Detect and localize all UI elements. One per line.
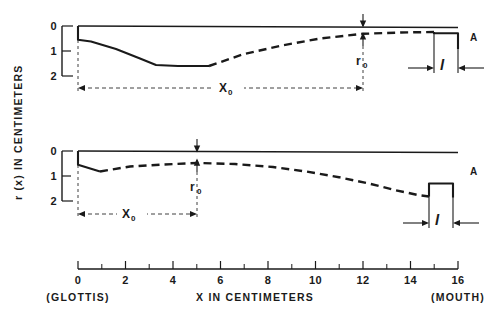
lower-l-dimension: l xyxy=(403,196,479,228)
lower-area-label: A xyxy=(470,166,478,177)
upper-r0-marker: r 0 xyxy=(356,14,368,92)
x-axis-left-end-label: (GLOTTIS) xyxy=(46,291,109,303)
lower-x0-label: X xyxy=(122,207,130,221)
upper-r0-subscript: 0 xyxy=(363,61,368,70)
lower-x0-subscript: 0 xyxy=(131,214,136,223)
upper-x0-label: X xyxy=(219,81,227,95)
upper-l-label: l xyxy=(440,56,445,73)
x-tick-label-6: 6 xyxy=(217,274,223,286)
lower-y-tick-label-0: 0 xyxy=(51,145,57,157)
upper-mouth-step xyxy=(434,32,458,49)
upper-x0-dimension: X 0 xyxy=(78,40,363,97)
x-axis-major-ticks xyxy=(78,261,458,269)
lower-r0-label: r xyxy=(190,180,195,194)
x-tick-label-10: 10 xyxy=(309,274,322,286)
x-axis: 0 2 4 6 8 10 12 14 16 (GLOTTIS) X IN CEN… xyxy=(46,261,485,303)
lower-wall-line xyxy=(78,151,458,153)
lower-radius-dashed-curve xyxy=(100,163,429,197)
lower-l-arrowhead-left xyxy=(422,220,429,226)
upper-l-arrowhead-right xyxy=(458,65,465,71)
upper-r0-label: r xyxy=(356,54,361,68)
lower-x0-arrowhead-right xyxy=(190,211,197,217)
upper-area-label: A xyxy=(470,32,478,43)
y-axis-label: r (x) IN CENTIMETERS xyxy=(12,65,24,200)
upper-y-tick-label-0: 0 xyxy=(51,20,57,32)
upper-y-tick-label-2: 2 xyxy=(51,70,57,82)
upper-x0-subscript: 0 xyxy=(228,88,233,97)
x-tick-label-16: 16 xyxy=(452,274,465,286)
x-tick-label-12: 12 xyxy=(357,274,370,286)
lower-y-tick-label-2: 2 xyxy=(51,195,57,207)
upper-l-arrowhead-left xyxy=(427,65,434,71)
lower-mouth-step xyxy=(429,184,453,198)
x-tick-label-8: 8 xyxy=(265,274,271,286)
upper-radius-solid-curve xyxy=(78,26,209,66)
lower-l-label: l xyxy=(435,211,440,228)
lower-l-arrowhead-right xyxy=(453,220,460,226)
x-axis-right-end-label: (MOUTH) xyxy=(431,291,485,303)
upper-y-tick-label-1: 1 xyxy=(51,45,57,57)
x-axis-label: X IN CENTIMETERS xyxy=(196,291,314,303)
lower-r0-subscript: 0 xyxy=(197,187,202,196)
upper-x0-arrowhead-right xyxy=(356,85,363,91)
upper-radius-dashed-curve xyxy=(209,32,434,66)
lower-radius-solid-curve xyxy=(78,151,100,172)
upper-y-axis: 0 1 2 xyxy=(51,20,73,82)
x-axis-tick-labels: 0 2 4 6 8 10 12 14 16 xyxy=(75,274,465,286)
vocal-tract-radius-figure: r (x) IN CENTIMETERS 0 1 2 xyxy=(0,0,500,311)
lower-y-tick-label-1: 1 xyxy=(51,170,57,182)
lower-panel: 0 1 2 A r 0 xyxy=(51,139,479,228)
figure-container: r (x) IN CENTIMETERS 0 1 2 xyxy=(0,0,500,311)
upper-wall-line xyxy=(78,26,458,28)
x-tick-label-4: 4 xyxy=(170,274,177,286)
upper-x0-arrowhead-left xyxy=(78,85,85,91)
lower-x0-arrowhead-left xyxy=(78,211,85,217)
upper-panel: 0 1 2 A r 0 xyxy=(51,14,484,97)
lower-y-axis: 0 1 2 xyxy=(51,145,73,207)
x-tick-label-2: 2 xyxy=(122,274,128,286)
x-tick-label-0: 0 xyxy=(75,274,81,286)
x-tick-label-14: 14 xyxy=(404,274,417,286)
lower-x0-dimension: X 0 xyxy=(78,165,197,223)
